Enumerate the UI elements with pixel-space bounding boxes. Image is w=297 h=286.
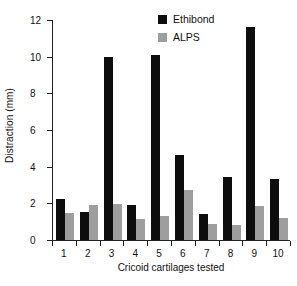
x-axis-tick bbox=[242, 241, 243, 246]
y-axis-tick bbox=[47, 20, 52, 21]
x-axis-tick bbox=[76, 241, 77, 246]
y-axis-tick bbox=[47, 130, 52, 131]
bar-alps-10 bbox=[279, 218, 288, 240]
bar-group bbox=[223, 20, 241, 240]
x-axis-title: Cricoid cartilages tested bbox=[52, 262, 290, 273]
y-axis-title: Distraction (mm) bbox=[0, 0, 18, 250]
x-axis-tick-label: 2 bbox=[85, 248, 91, 259]
x-axis-tick bbox=[52, 241, 53, 246]
y-axis-tick-label: 0 bbox=[30, 235, 41, 246]
bar-alps-5 bbox=[160, 216, 169, 240]
y-axis-tick bbox=[47, 93, 52, 94]
x-axis-tick bbox=[219, 241, 220, 246]
bar-group bbox=[127, 20, 145, 240]
legend-swatch-icon bbox=[158, 33, 167, 42]
x-axis-title-label: Cricoid cartilages tested bbox=[118, 262, 225, 273]
y-axis-title-label: Distraction (mm) bbox=[4, 88, 15, 163]
bar-ethibond-9 bbox=[246, 27, 255, 240]
x-axis-tick bbox=[100, 241, 101, 246]
y-axis-tick-label: 4 bbox=[30, 161, 41, 172]
bar-ethibond-2 bbox=[80, 212, 89, 240]
y-axis-tick-label: 8 bbox=[30, 88, 41, 99]
bar-ethibond-5 bbox=[151, 55, 160, 240]
bar-group bbox=[199, 20, 217, 240]
bar-group bbox=[175, 20, 193, 240]
bar-ethibond-3 bbox=[104, 57, 113, 240]
legend-swatch-icon bbox=[158, 15, 167, 24]
bar-group bbox=[151, 20, 169, 240]
legend: EthibondALPS bbox=[158, 13, 268, 49]
x-axis-tick-label: 5 bbox=[156, 248, 162, 259]
bar-alps-6 bbox=[184, 190, 193, 240]
legend-entry-ethibond: Ethibond bbox=[158, 13, 268, 25]
bar-ethibond-6 bbox=[175, 155, 184, 240]
legend-label: ALPS bbox=[173, 31, 200, 43]
y-axis-tick-label: 6 bbox=[30, 125, 41, 136]
bar-ethibond-1 bbox=[56, 199, 65, 240]
y-axis-tick-label: 2 bbox=[30, 198, 41, 209]
bar-alps-7 bbox=[208, 224, 217, 240]
x-axis-tick bbox=[266, 241, 267, 246]
x-axis-tick bbox=[195, 241, 196, 246]
legend-label: Ethibond bbox=[173, 13, 214, 25]
x-axis-tick bbox=[171, 241, 172, 246]
x-axis-tick-label: 10 bbox=[273, 248, 284, 259]
bar-alps-3 bbox=[113, 204, 122, 240]
x-axis-tick-label: 6 bbox=[180, 248, 186, 259]
x-axis-tick bbox=[147, 241, 148, 246]
x-axis-tick-label: 7 bbox=[204, 248, 210, 259]
bar-group bbox=[246, 20, 264, 240]
bar-alps-2 bbox=[89, 205, 98, 240]
x-axis-tick-label: 8 bbox=[228, 248, 234, 259]
bar-alps-8 bbox=[232, 225, 241, 240]
y-axis-tick-label: 10 bbox=[30, 51, 41, 62]
x-axis-tick bbox=[290, 241, 291, 246]
bar-alps-9 bbox=[255, 206, 264, 240]
bar-ethibond-10 bbox=[270, 179, 279, 240]
bar-group bbox=[56, 20, 74, 240]
y-axis-tick bbox=[47, 167, 52, 168]
x-axis-tick-label: 3 bbox=[109, 248, 115, 259]
x-axis-tick-label: 4 bbox=[133, 248, 139, 259]
x-axis-tick-label: 1 bbox=[61, 248, 67, 259]
bar-alps-4 bbox=[136, 219, 145, 240]
legend-entry-alps: ALPS bbox=[158, 31, 268, 43]
plot-area: 024681012 12345678910 bbox=[52, 20, 290, 240]
y-axis-tick bbox=[47, 57, 52, 58]
y-axis-line bbox=[52, 20, 53, 240]
y-axis-tick-label: 12 bbox=[30, 15, 41, 26]
bar-ethibond-4 bbox=[127, 205, 136, 240]
x-axis-tick bbox=[123, 241, 124, 246]
bar-alps-1 bbox=[65, 213, 74, 240]
bar-group bbox=[270, 20, 288, 240]
bar-chart: Distraction (mm) 024681012 12345678910 C… bbox=[0, 0, 297, 286]
x-axis-tick-label: 9 bbox=[252, 248, 258, 259]
y-axis-tick bbox=[47, 203, 52, 204]
bar-ethibond-8 bbox=[223, 177, 232, 240]
bar-group bbox=[80, 20, 98, 240]
bar-group bbox=[104, 20, 122, 240]
bar-ethibond-7 bbox=[199, 214, 208, 240]
